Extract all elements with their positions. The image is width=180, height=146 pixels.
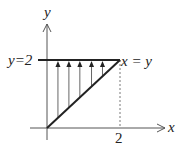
label-x-equals-y-text: x = y (120, 53, 152, 69)
flow-arrow-head-icon (55, 61, 60, 67)
label-y-equals-2-text: y=2 (6, 52, 33, 68)
label-y-equals-2: y=2 (6, 52, 33, 68)
flow-arrow-head-icon (100, 61, 105, 67)
flow-arrows (55, 61, 105, 118)
y-axis-label: y (42, 4, 51, 20)
x-axis-label: x (167, 119, 175, 135)
x-tick-label-2: 2 (115, 130, 123, 146)
flow-arrow-head-icon (89, 61, 94, 67)
flow-arrow-head-icon (77, 61, 82, 67)
flow-arrow-head-icon (66, 61, 71, 67)
label-x-equals-y: x = y (120, 53, 152, 69)
diagram-canvas: y x 2 y=2 x = y (0, 0, 180, 146)
